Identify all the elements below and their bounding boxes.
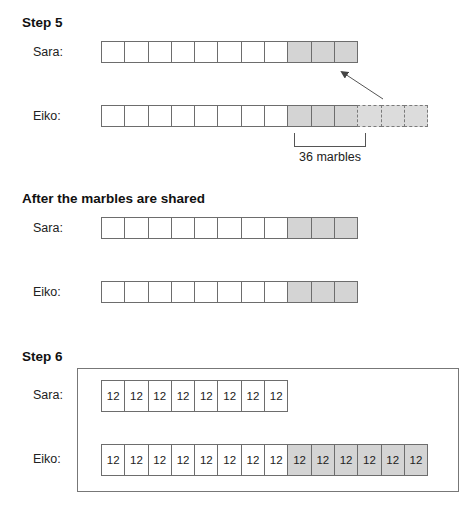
bar-cell: 12 bbox=[101, 444, 125, 476]
bar-cell bbox=[217, 281, 241, 303]
step6-heading: Step 6 bbox=[22, 349, 63, 364]
after-eiko-bar bbox=[101, 281, 358, 303]
bar-cell: 12 bbox=[241, 380, 265, 412]
bar-cell: 12 bbox=[404, 444, 428, 476]
bar-cell bbox=[334, 281, 358, 303]
bar-cell: 12 bbox=[194, 380, 218, 412]
after-eiko-label: Eiko: bbox=[33, 285, 61, 299]
bar-cell bbox=[241, 281, 265, 303]
bar-cell: 12 bbox=[241, 444, 265, 476]
bar-cell bbox=[311, 217, 335, 239]
bar-cell: 12 bbox=[194, 444, 218, 476]
bar-cell bbox=[194, 217, 218, 239]
bar-cell bbox=[171, 281, 195, 303]
bar-cell: 12 bbox=[217, 380, 241, 412]
bar-cell bbox=[194, 281, 218, 303]
bar-cell: 12 bbox=[357, 444, 381, 476]
bar-cell: 12 bbox=[264, 380, 288, 412]
bar-cell: 12 bbox=[171, 444, 195, 476]
after-shared-heading: After the marbles are shared bbox=[22, 191, 205, 206]
bar-cell: 12 bbox=[148, 444, 172, 476]
bar-cell bbox=[287, 217, 311, 239]
bar-cell bbox=[124, 281, 148, 303]
step6-sara-label: Sara: bbox=[33, 388, 63, 402]
step6-sara-bar: 1212121212121212 bbox=[101, 380, 288, 412]
bar-cell bbox=[148, 217, 172, 239]
bar-cell: 12 bbox=[171, 380, 195, 412]
bar-cell: 12 bbox=[381, 444, 405, 476]
bar-cell: 12 bbox=[217, 444, 241, 476]
bar-cell: 12 bbox=[148, 380, 172, 412]
bracket bbox=[294, 133, 366, 147]
bar-cell bbox=[148, 281, 172, 303]
bar-cell bbox=[101, 217, 125, 239]
bar-cell bbox=[334, 217, 358, 239]
bar-cell: 12 bbox=[264, 444, 288, 476]
bar-cell bbox=[217, 217, 241, 239]
step6-eiko-bar: 1212121212121212121212121212 bbox=[101, 444, 428, 476]
after-sara-label: Sara: bbox=[33, 221, 63, 235]
bar-cell bbox=[241, 217, 265, 239]
bar-cell: 12 bbox=[124, 444, 148, 476]
bar-cell bbox=[287, 281, 311, 303]
bar-cell bbox=[311, 281, 335, 303]
bar-cell: 12 bbox=[101, 380, 125, 412]
after-sara-bar bbox=[101, 217, 358, 239]
bar-cell: 12 bbox=[311, 444, 335, 476]
bar-cell: 12 bbox=[334, 444, 358, 476]
bar-cell bbox=[124, 217, 148, 239]
bar-cell bbox=[264, 217, 288, 239]
bar-cell bbox=[101, 281, 125, 303]
bar-cell bbox=[171, 217, 195, 239]
bracket-label: 36 marbles bbox=[294, 150, 366, 164]
bar-cell: 12 bbox=[124, 380, 148, 412]
bar-cell bbox=[264, 281, 288, 303]
step6-eiko-label: Eiko: bbox=[33, 452, 61, 466]
bar-cell: 12 bbox=[287, 444, 311, 476]
